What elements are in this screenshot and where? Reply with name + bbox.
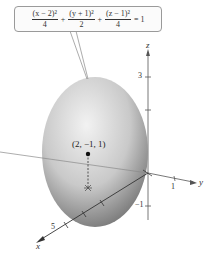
equation-callout: (x − 2)² 4 + (y + 1)² 2 + (z − 1)² 4 = 1 — [14, 6, 162, 32]
equation-term: (z − 1)² 4 — [105, 10, 131, 29]
y-tick-1: 1 — [171, 182, 175, 191]
equation-term: (x − 2)² 4 — [32, 10, 58, 29]
z-tick-neg1: −1 — [135, 200, 144, 209]
x-tick-5: 5 — [51, 222, 55, 231]
z-axis-arrow-icon — [146, 49, 150, 56]
equation-term: (y + 1)² 2 — [68, 10, 94, 29]
ellipsoid-diagram — [0, 0, 210, 254]
y-axis-line — [148, 173, 193, 182]
z-axis-label: z — [146, 40, 150, 50]
center-point — [86, 152, 90, 156]
x-axis-label: x — [36, 241, 40, 251]
center-point-label: (2, −1, 1) — [72, 139, 106, 149]
y-axis-arrow-icon — [190, 180, 197, 185]
y-axis-label: y — [199, 177, 203, 187]
ellipsoid-surface — [42, 77, 148, 227]
z-tick-3: 3 — [138, 71, 142, 80]
